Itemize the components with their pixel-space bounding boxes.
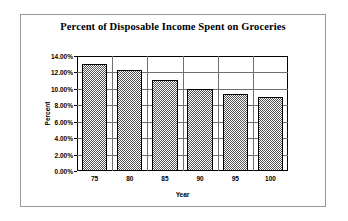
bar-75[interactable] (82, 64, 107, 171)
chart-title: Percent of Disposable Income Spent on Gr… (21, 21, 325, 32)
x-axis-tick-label: 100 (253, 175, 288, 182)
y-axis-tick-label: 14.00% (51, 53, 73, 60)
bar-90[interactable] (187, 89, 212, 171)
y-axis-title-label: Percent (45, 102, 52, 126)
bar-85[interactable] (152, 80, 177, 171)
x-axis-tick-label: 75 (77, 175, 112, 182)
x-axis-tick-label: 95 (218, 175, 253, 182)
bar-series (77, 56, 288, 171)
x-axis-title: Year (77, 191, 288, 198)
bar-95[interactable] (223, 94, 248, 171)
bar-slot (183, 56, 218, 171)
bar-80[interactable] (117, 70, 142, 171)
bar-slot (112, 56, 147, 171)
chart-frame: Percent of Disposable Income Spent on Gr… (20, 14, 326, 207)
plot-area-wrapper: 14.00%12.00%10.00%8.00%6.00%4.00%2.00%0.… (77, 56, 288, 171)
x-axis-ticks: 7580859095100 (77, 175, 288, 182)
bar-slot (77, 56, 112, 171)
x-axis-tick-label: 80 (112, 175, 147, 182)
y-axis-tick-mark (74, 171, 77, 172)
y-axis-tick-label: 0.00% (55, 168, 73, 175)
bar-slot (253, 56, 288, 171)
y-axis-tick-label: 12.00% (51, 69, 73, 76)
y-axis-tick-label: 10.00% (51, 85, 73, 92)
y-axis-tick-label: 8.00% (55, 102, 73, 109)
y-axis-tick-label: 4.00% (55, 135, 73, 142)
y-axis-tick-label: 6.00% (55, 118, 73, 125)
bar-100[interactable] (258, 97, 283, 171)
y-axis-tick-label: 2.00% (55, 151, 73, 158)
x-axis-tick-label: 85 (147, 175, 182, 182)
x-axis-tick-label: 90 (183, 175, 218, 182)
bar-slot (218, 56, 253, 171)
bar-slot (147, 56, 182, 171)
